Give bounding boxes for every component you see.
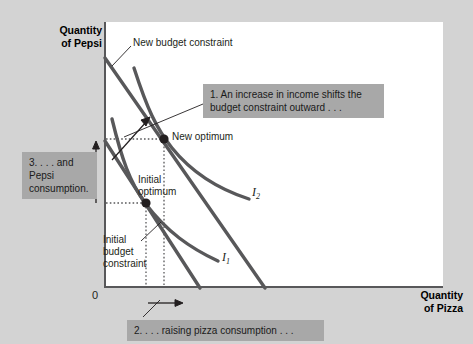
indifference-curve-i2-label: I2 — [252, 185, 260, 201]
initial-optimum-dot — [141, 198, 150, 207]
pepsi-consumption-arrow-head — [93, 141, 100, 149]
callout-step-3: 3. . . . and Pepsi consumption. — [22, 152, 97, 199]
new-budget-constraint-leader — [112, 46, 131, 66]
callout-step-2: 2. . . . raising pizza consumption . . . — [127, 320, 324, 341]
economics-figure: Quantity of Pepsi Quantity of Pizza 0 Ne… — [0, 0, 473, 344]
pizza-consumption-arrow-head — [175, 300, 183, 307]
initial-budget-constraint-label: Initial budget constraint — [103, 234, 146, 270]
callout-step-1: 1. An increase in income shifts the budg… — [203, 84, 384, 118]
x-axis-title: Quantity of Pizza — [368, 289, 463, 314]
y-axis-title: Quantity of Pepsi — [22, 24, 102, 49]
indifference-curve-i1-label: I1 — [222, 250, 230, 266]
i2-subscript: 2 — [256, 192, 260, 201]
new-optimum-label: New optimum — [172, 131, 233, 143]
new-budget-constraint-label: New budget constraint — [133, 37, 233, 49]
initial-optimum-label: Initial optimum — [138, 174, 176, 198]
i1-subscript: 1 — [226, 257, 230, 266]
new-optimum-dot — [159, 134, 168, 143]
origin-label: 0 — [92, 289, 98, 301]
